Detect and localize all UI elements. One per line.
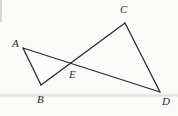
geometry-figure: A B C D E [0, 0, 178, 116]
vertex-label-a: A [12, 38, 19, 49]
segment-CD [125, 23, 160, 92]
vertex-label-e: E [69, 69, 76, 80]
vertex-label-b: B [37, 94, 44, 105]
segment-BC [41, 23, 125, 85]
figure-canvas [0, 0, 178, 116]
vertex-label-d: D [162, 96, 170, 107]
segment-AD [23, 48, 160, 92]
vertex-label-c: C [120, 4, 127, 15]
